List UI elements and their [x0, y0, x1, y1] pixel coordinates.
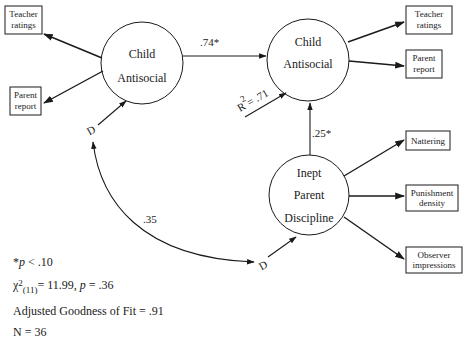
disturbance-arrow-d1 [98, 101, 126, 125]
svg-text:Child: Child [129, 47, 156, 61]
svg-text:Parent: Parent [413, 53, 436, 63]
latent-child-antisocial-t1: Child Antisocial [101, 22, 183, 104]
disturbance-arrow-d2 [268, 237, 296, 257]
path-coefficient-t1-t2: .74* [200, 36, 219, 48]
svg-text:Nattering: Nattering [411, 136, 445, 146]
loading-arrow-t2-teacher [348, 22, 404, 42]
loading-arrow-t1-parent [44, 71, 103, 103]
svg-text:Punishment: Punishment [411, 188, 454, 198]
sample-size-note: N = 36 [13, 322, 164, 340]
latent-child-antisocial-t2: Child Antisocial [267, 19, 349, 101]
chi-square-statistic: χ2(11)= 11.99, p = .36 [13, 273, 164, 301]
svg-text:Observer: Observer [418, 250, 451, 260]
indicator-box-teacher-ratings-t2: Teacher ratings [406, 6, 452, 34]
fit-statistics-notes: *p < .10 χ2(11)= 11.99, p = .36 Adjusted… [13, 252, 164, 340]
svg-text:Discipline: Discipline [284, 211, 333, 225]
path-coefficient-ipd-t2: .25* [312, 127, 331, 139]
indicator-box-observer-impressions: Observer impressions [406, 247, 462, 273]
svg-text:ratings: ratings [11, 20, 36, 30]
svg-text:ratings: ratings [417, 20, 442, 30]
correlation-coefficient: .35 [143, 213, 157, 225]
indicator-box-parent-report-t1: Parent report [10, 87, 41, 115]
loading-arrow-ipd-nattering [344, 140, 404, 176]
disturbance-correlation-curve [93, 142, 254, 262]
disturbance-label-d2: D [257, 258, 270, 272]
loading-arrow-ipd-observer [344, 217, 404, 259]
svg-text:impressions: impressions [412, 260, 455, 270]
indicator-box-nattering: Nattering [406, 131, 450, 150]
svg-text:Inept: Inept [297, 166, 322, 180]
svg-text:Child: Child [295, 35, 322, 49]
loading-arrow-t1-teacher [44, 34, 102, 58]
disturbance-label-d1: D [85, 123, 98, 137]
svg-text:Antisocial: Antisocial [117, 71, 167, 85]
svg-text:Teacher: Teacher [9, 9, 37, 19]
latent-inept-parent-discipline: Inept Parent Discipline [269, 155, 349, 235]
svg-text:Parent: Parent [294, 188, 325, 202]
svg-text:Parent: Parent [14, 90, 37, 100]
svg-text:density: density [419, 198, 445, 208]
significance-note: *p < .10 [13, 252, 164, 273]
r-squared-label: R 2 = .71 [233, 82, 271, 114]
adjusted-goodness-of-fit: Adjusted Goodness of Fit = .91 [13, 301, 164, 322]
indicator-box-parent-report-t2: Parent report [406, 50, 442, 78]
indicator-box-teacher-ratings-t1: Teacher ratings [5, 6, 42, 34]
svg-text:report: report [15, 101, 37, 111]
svg-text:report: report [413, 64, 435, 74]
indicator-box-punishment-density: Punishment density [406, 185, 458, 211]
svg-text:Antisocial: Antisocial [283, 57, 333, 71]
svg-text:Teacher: Teacher [415, 9, 443, 19]
loading-arrow-t2-parent [349, 61, 404, 66]
